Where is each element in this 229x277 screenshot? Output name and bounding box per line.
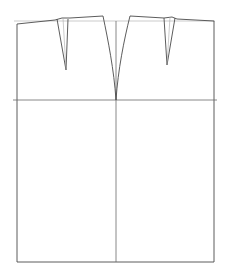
dart-left bbox=[57, 19, 68, 70]
waist-curve-right bbox=[130, 16, 214, 21]
waist-curve-left bbox=[17, 16, 103, 24]
skirt-pattern-diagram bbox=[0, 0, 229, 277]
dart-center bbox=[103, 16, 130, 100]
